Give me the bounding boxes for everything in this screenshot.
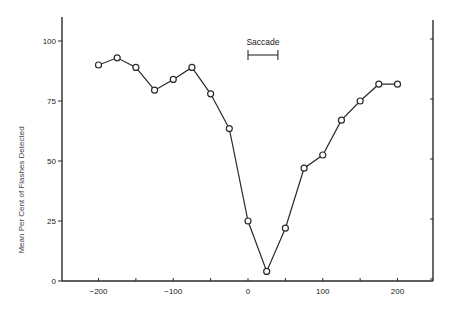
data-point-marker xyxy=(357,98,363,104)
data-point-marker xyxy=(208,91,214,97)
x-tick-label: 0 xyxy=(246,287,251,296)
data-point-marker xyxy=(282,225,288,231)
chart: 0255075100−200−1000100200 Saccade Mean P… xyxy=(0,0,454,313)
saccade-label: Saccade xyxy=(246,37,279,47)
y-tick-label: 50 xyxy=(47,157,56,166)
y-tick-label: 100 xyxy=(43,37,57,46)
data-point-marker xyxy=(301,165,307,171)
axes: 0255075100−200−1000100200 xyxy=(43,17,433,296)
line-chart-svg: 0255075100−200−1000100200 Saccade Mean P… xyxy=(0,0,454,313)
data-point-marker xyxy=(114,55,120,61)
data-point-marker xyxy=(338,117,344,123)
x-tick-label: 100 xyxy=(316,287,330,296)
y-tick-label: 25 xyxy=(47,217,56,226)
data-point-marker xyxy=(320,152,326,158)
data-point-marker xyxy=(170,76,176,82)
data-point-marker xyxy=(189,64,195,70)
data-point-marker xyxy=(376,81,382,87)
annotations: Saccade xyxy=(246,37,279,60)
x-tick-label: −100 xyxy=(164,287,183,296)
y-tick-label: 75 xyxy=(47,97,56,106)
data-point-marker xyxy=(264,268,270,274)
data-point-marker xyxy=(226,126,232,132)
x-tick-label: 200 xyxy=(391,287,405,296)
data-point-marker xyxy=(96,62,102,68)
y-axis-label: Mean Per Cent of Flashes Detected xyxy=(17,126,26,253)
series-line xyxy=(99,58,398,272)
data-point-marker xyxy=(245,218,251,224)
data-point-marker xyxy=(395,81,401,87)
y-tick-label: 0 xyxy=(52,277,57,286)
data-point-marker xyxy=(152,87,158,93)
data-series xyxy=(96,55,401,275)
data-point-marker xyxy=(133,64,139,70)
x-tick-label: −200 xyxy=(89,287,108,296)
